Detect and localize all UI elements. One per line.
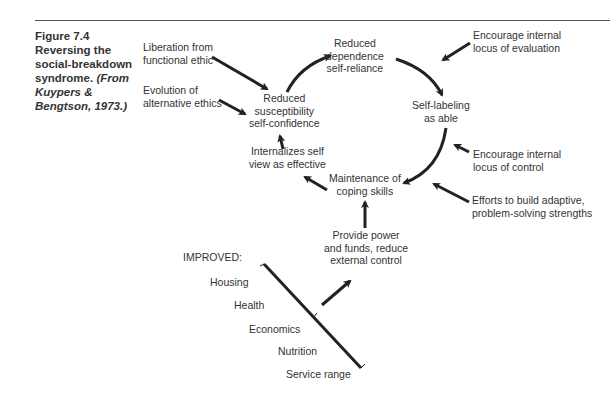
arrow-evolution bbox=[219, 100, 245, 114]
arrow-maintenance-to-internalizes bbox=[305, 177, 327, 190]
arrow-improved-to-provide bbox=[322, 281, 350, 305]
node-provide-power: Provide power and funds, reduce external… bbox=[324, 229, 408, 267]
improved-heading: IMPROVED: bbox=[183, 251, 242, 264]
node-self-labeling: Self-labeling as able bbox=[412, 99, 470, 124]
input-liberation: Liberation from functional ethic bbox=[143, 41, 213, 66]
input-encourage-control: Encourage internal locus of control bbox=[473, 148, 561, 173]
arrow-dependence-to-selflabeling bbox=[396, 59, 442, 95]
node-internalizes: Internalizes self view as effective bbox=[249, 145, 326, 170]
improved-item-economics: Economics bbox=[249, 323, 300, 336]
input-efforts: Efforts to build adaptive, problem-solvi… bbox=[472, 194, 592, 219]
arrow-selflabeling-to-maintenance bbox=[404, 128, 446, 183]
node-reduced-dependence: Reduced dependence self-reliance bbox=[326, 37, 384, 75]
input-encourage-evaluation: Encourage internal locus of evaluation bbox=[473, 29, 561, 54]
arrow-susceptibility-to-dependence bbox=[287, 56, 330, 92]
arrow-encourage-evaluation bbox=[443, 43, 470, 60]
arrow-encourage-control bbox=[455, 145, 469, 152]
arrow-efforts bbox=[434, 184, 469, 202]
input-evolution: Evolution of alternative ethics bbox=[143, 84, 222, 109]
improved-item-health: Health bbox=[234, 299, 264, 312]
node-maintenance: Maintenance of coping skills bbox=[329, 172, 401, 197]
improved-item-nutrition: Nutrition bbox=[278, 345, 317, 358]
improved-item-housing: Housing bbox=[210, 276, 249, 289]
node-reduced-susceptibility: Reduced susceptibility self-confidence bbox=[249, 92, 320, 130]
improved-item-service-range: Service range bbox=[286, 368, 351, 381]
